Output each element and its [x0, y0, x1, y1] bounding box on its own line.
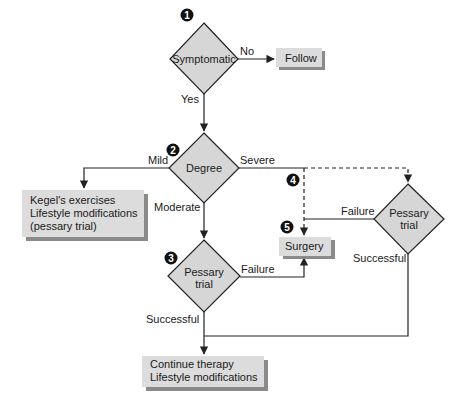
- node-symptomatic-label: Symptomatic: [172, 53, 236, 65]
- node-pessary-severe: Pessary trial: [374, 184, 444, 254]
- edge-label-failure-severe: Failure: [341, 205, 375, 217]
- node-follow: Follow: [276, 48, 325, 70]
- node-kegel-line-3: (pessary trial): [30, 220, 97, 232]
- edge-label-successful-severe: Successful: [353, 252, 406, 264]
- badge-4: 4: [287, 174, 300, 187]
- flowchart-canvas: Symptomatic 1 Follow Degree 2 Kegel's ex…: [0, 0, 476, 400]
- svg-text:2: 2: [170, 145, 176, 156]
- edge-severe-dashed-to-pessary: [304, 168, 408, 182]
- node-pessary-severe-line-2: trial: [400, 219, 418, 231]
- node-surgery-label: Surgery: [285, 240, 324, 252]
- svg-text:1: 1: [184, 10, 190, 21]
- edge-label-failure-moderate: Failure: [241, 263, 275, 275]
- badge-1: 1: [181, 9, 194, 22]
- node-follow-label: Follow: [285, 52, 317, 64]
- edge-label-successful-moderate: Successful: [146, 313, 199, 325]
- node-kegel: Kegel's exercises Lifestyle modification…: [22, 190, 148, 241]
- badge-2: 2: [167, 144, 180, 157]
- node-kegel-line-2: Lifestyle modifications: [30, 207, 138, 219]
- node-continue-line-2: Lifestyle modifications: [150, 371, 258, 383]
- svg-text:5: 5: [284, 222, 290, 233]
- edge-label-yes: Yes: [181, 93, 199, 105]
- node-symptomatic: Symptomatic: [170, 23, 238, 94]
- node-degree: Degree: [169, 133, 239, 203]
- node-continue-line-1: Continue therapy: [150, 358, 234, 370]
- edge-label-moderate: Moderate: [154, 201, 200, 213]
- node-pessary-moderate-line-2: trial: [195, 278, 213, 290]
- edge-label-severe: Severe: [240, 154, 275, 166]
- edge-successful-severe: [204, 254, 408, 336]
- edge-mild: [84, 168, 169, 188]
- node-degree-label: Degree: [186, 162, 222, 174]
- node-kegel-line-1: Kegel's exercises: [30, 194, 116, 206]
- edge-label-no: No: [240, 45, 254, 57]
- svg-text:4: 4: [290, 175, 296, 186]
- node-surgery: Surgery: [279, 237, 335, 259]
- edge-label-mild: Mild: [148, 154, 168, 166]
- svg-text:3: 3: [168, 253, 174, 264]
- node-pessary-moderate-line-1: Pessary: [184, 266, 224, 278]
- node-pessary-severe-line-1: Pessary: [389, 207, 429, 219]
- badge-3: 3: [165, 252, 178, 265]
- node-continue: Continue therapy Lifestyle modifications: [142, 356, 268, 391]
- badge-5: 5: [281, 221, 294, 234]
- node-pessary-moderate: Pessary trial: [168, 240, 240, 312]
